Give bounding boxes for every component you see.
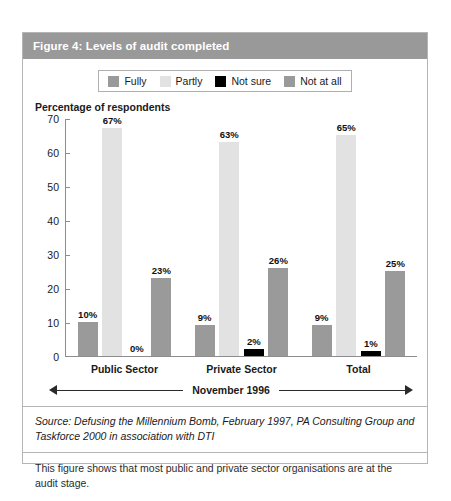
bar-value-label: 25% xyxy=(386,258,405,269)
period-annotation: November 1996 xyxy=(49,380,413,400)
legend-swatch-icon xyxy=(160,76,171,87)
bar-partly[interactable]: 65% xyxy=(336,135,356,356)
bar-partly[interactable]: 67% xyxy=(102,128,122,356)
y-tick-label: 40 xyxy=(47,215,59,227)
category-label: Total xyxy=(346,363,370,375)
legend-label: Not at all xyxy=(300,75,341,87)
bar-value-label: 9% xyxy=(198,312,212,323)
period-line-left xyxy=(57,390,183,391)
y-tick-label: 0 xyxy=(53,351,59,363)
divider-above-source xyxy=(23,406,427,407)
y-tick-label: 70 xyxy=(47,113,59,125)
legend-label: Partly xyxy=(176,75,203,87)
bar-value-label: 65% xyxy=(337,122,356,133)
bar-group: 9%65%1%25% xyxy=(300,119,417,356)
period-label: November 1996 xyxy=(183,384,279,396)
x-axis-category-labels: Public SectorPrivate SectorTotal xyxy=(66,360,417,378)
legend-container: FullyPartlyNot sureNot at all xyxy=(23,70,427,92)
bar-not-at-all[interactable]: 26% xyxy=(268,268,288,356)
period-line-right xyxy=(279,390,405,391)
bar-value-label: 9% xyxy=(315,312,329,323)
legend-item-fully[interactable]: Fully xyxy=(108,75,146,87)
x-axis-line xyxy=(65,356,417,357)
legend-swatch-icon xyxy=(215,76,226,87)
bar-value-label: 10% xyxy=(78,309,97,320)
legend-item-not-sure[interactable]: Not sure xyxy=(215,75,271,87)
chart-legend: FullyPartlyNot sureNot at all xyxy=(98,70,351,92)
bar-fully[interactable]: 9% xyxy=(312,325,332,356)
bar-fully[interactable]: 10% xyxy=(78,322,98,356)
plot-area: 010203040506070 10%67%0%23%9%63%2%26%9%6… xyxy=(35,119,417,357)
bar-value-label: 23% xyxy=(152,265,171,276)
bar-value-label: 0% xyxy=(130,343,144,354)
bar-value-label: 63% xyxy=(220,129,239,140)
y-tick-label: 30 xyxy=(47,249,59,261)
y-tick-label: 20 xyxy=(47,283,59,295)
source-note: Source: Defusing the Millennium Bomb, Fe… xyxy=(35,414,415,444)
bar-not-at-all[interactable]: 23% xyxy=(151,278,171,356)
bar-group: 10%67%0%23% xyxy=(66,119,183,356)
y-tick-label: 60 xyxy=(47,147,59,159)
bar-group: 9%63%2%26% xyxy=(183,119,300,356)
y-tick-label: 50 xyxy=(47,181,59,193)
bar-value-label: 26% xyxy=(269,255,288,266)
legend-item-partly[interactable]: Partly xyxy=(160,75,203,87)
legend-item-not-at-all[interactable]: Not at all xyxy=(284,75,341,87)
figure-panel: Figure 4: Levels of audit completed Full… xyxy=(22,32,428,464)
legend-label: Fully xyxy=(124,75,146,87)
y-tick-label: 10 xyxy=(47,317,59,329)
bars-layer: 10%67%0%23%9%63%2%26%9%65%1%25% xyxy=(66,119,417,356)
category-label: Private Sector xyxy=(206,363,277,375)
category-label: Public Sector xyxy=(91,363,158,375)
arrow-left-icon xyxy=(49,385,57,395)
bar-not-sure[interactable]: 2% xyxy=(244,349,264,356)
y-axis-title: Percentage of respondents xyxy=(35,101,427,113)
figure-commentary: This figure shows that most public and p… xyxy=(35,461,415,491)
legend-swatch-icon xyxy=(108,76,119,87)
bar-fully[interactable]: 9% xyxy=(195,325,215,356)
bar-partly[interactable]: 63% xyxy=(219,142,239,356)
figure-title-bar: Figure 4: Levels of audit completed xyxy=(23,33,427,59)
y-axis-tick-labels: 010203040506070 xyxy=(35,119,59,357)
divider-above-note xyxy=(23,452,427,453)
legend-label: Not sure xyxy=(231,75,271,87)
bar-value-label: 67% xyxy=(103,115,122,126)
figure-title: Figure 4: Levels of audit completed xyxy=(33,40,229,52)
bar-value-label: 2% xyxy=(247,336,261,347)
bar-not-at-all[interactable]: 25% xyxy=(385,271,405,356)
legend-swatch-icon xyxy=(284,76,295,87)
bar-value-label: 1% xyxy=(364,338,378,349)
arrow-right-icon xyxy=(405,385,413,395)
bar-not-sure[interactable]: 1% xyxy=(361,351,381,356)
